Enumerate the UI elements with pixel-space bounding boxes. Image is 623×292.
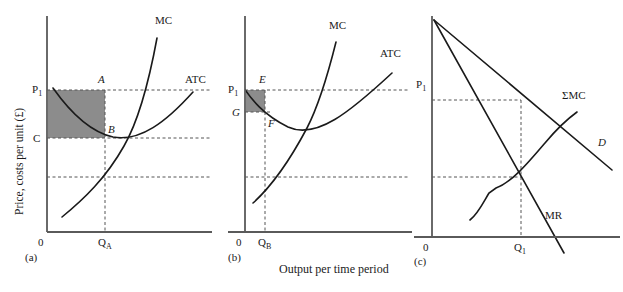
panel-a-point-b-label: B bbox=[108, 124, 115, 135]
panel-c-sum-mc-label: ΣMC bbox=[562, 90, 586, 101]
panel-c-origin-label: 0 bbox=[423, 242, 429, 253]
panel-a-origin-label: 0 bbox=[38, 237, 44, 248]
panel-c-price-label: P1 bbox=[416, 79, 426, 93]
panel-b-tag: (b) bbox=[228, 252, 241, 263]
panel-c-demand-label: D bbox=[598, 137, 606, 148]
panel-a-tag: (a) bbox=[25, 252, 37, 263]
panel-a-price-label: P1 bbox=[32, 84, 42, 98]
panel-a-cost-label: C bbox=[33, 133, 40, 144]
panel-b-point-e-label: E bbox=[259, 74, 266, 85]
panel-b-point-f-label: F bbox=[268, 118, 275, 129]
panel-b-mc-label: MC bbox=[329, 20, 346, 31]
panel-a-mc-label: MC bbox=[155, 15, 172, 26]
panel-b-cost-label: G bbox=[232, 107, 240, 118]
panel-c-quantity-label: Q1 bbox=[514, 242, 526, 256]
panel-a-quantity-label: QA bbox=[98, 237, 112, 251]
panel-b-atc-label: ATC bbox=[380, 48, 401, 59]
x-axis-title: Output per time period bbox=[279, 263, 389, 275]
panel-c-tag: (c) bbox=[414, 256, 426, 267]
panel-a-point-a-label: A bbox=[98, 74, 105, 85]
panel-b-origin-label: 0 bbox=[236, 237, 242, 248]
figure-canvas bbox=[0, 0, 623, 292]
cartel-three-panel-figure: Price, costs per unit (£) Output per tim… bbox=[0, 0, 623, 292]
panel-c-sum-mc-curve bbox=[470, 112, 577, 220]
y-axis-title: Price, costs per unit (£) bbox=[14, 108, 26, 215]
panel-b-quantity-label: QB bbox=[258, 237, 271, 251]
panel-a-atc-label: ATC bbox=[185, 74, 206, 85]
panel-b-price-label: P1 bbox=[228, 84, 238, 98]
panel-c-mr-label: MR bbox=[545, 210, 562, 221]
